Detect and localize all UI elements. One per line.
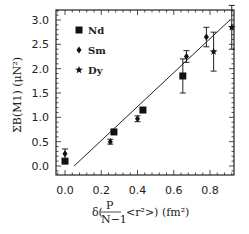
x-tick-label: 0.2 (93, 184, 111, 197)
data-point-nd (110, 128, 117, 135)
legend-item-dy: Dy (75, 65, 103, 76)
x-tick-label: 0.0 (56, 184, 74, 197)
legend-item-sm: Sm (77, 45, 107, 56)
y-label: ΣB(M1) (μN²) (11, 57, 24, 133)
data-point-sm (107, 138, 113, 145)
x-label-suffix: <r²>) (fm²) (126, 206, 189, 219)
x-tick-label: 0.8 (201, 184, 219, 197)
y-tick-label: 0.0 (32, 160, 50, 173)
y-tick-label: 1.5 (32, 87, 50, 100)
legend: NdSmDy (75, 25, 106, 76)
data-point-sm (183, 51, 189, 63)
legend-label: Nd (88, 25, 104, 36)
y-tick-label: 2.0 (32, 63, 50, 76)
y-tick-label: 2.5 (32, 38, 50, 51)
axis-ticks (56, 10, 234, 175)
x-label-numerator: P (106, 199, 114, 212)
legend-item-nd: Nd (76, 25, 105, 36)
y-tick-label: 0.5 (32, 136, 50, 149)
x-tick-label: 0.4 (129, 184, 147, 197)
plot-frame (56, 10, 234, 175)
legend-label: Dy (88, 65, 104, 76)
data-point-sm (62, 149, 68, 159)
axis-tick-labels: 0.00.51.01.52.02.53.00.00.20.40.60.8 (32, 14, 219, 197)
x-tick-label: 0.6 (165, 184, 183, 197)
x-axis-label: δ( P N−1 <r²>) (fm²) (92, 199, 189, 226)
data-point-nd (139, 107, 146, 114)
legend-label: Sm (88, 45, 106, 56)
y-axis-label: ΣB(M1) (μN²) (11, 57, 24, 133)
x-label-denominator: N−1 (101, 213, 127, 226)
chart-canvas: 0.00.51.01.52.02.53.00.00.20.40.60.8 NdS… (0, 0, 249, 234)
y-tick-label: 3.0 (32, 14, 50, 27)
y-tick-label: 1.0 (32, 111, 50, 124)
data-point-nd (179, 59, 186, 93)
data-point-sm (135, 115, 141, 122)
